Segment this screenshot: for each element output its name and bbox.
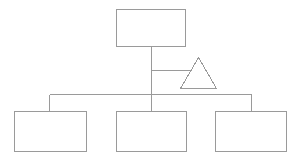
node-leaf-box-middle[interactable] <box>117 112 187 152</box>
node-side-triangle[interactable] <box>181 58 217 89</box>
connector-group <box>50 47 252 112</box>
leaf-box-left-shape[interactable] <box>15 112 87 152</box>
node-leaf-box-right[interactable] <box>216 112 287 152</box>
leaf-box-middle-shape[interactable] <box>117 112 187 152</box>
root-box-shape[interactable] <box>117 10 186 47</box>
node-root-box[interactable] <box>117 10 186 47</box>
leaf-box-right-shape[interactable] <box>216 112 287 152</box>
side-triangle-shape[interactable] <box>181 58 217 89</box>
node-leaf-box-left[interactable] <box>15 112 87 152</box>
diagram-svg <box>0 0 298 160</box>
diagram-canvas <box>0 0 298 160</box>
